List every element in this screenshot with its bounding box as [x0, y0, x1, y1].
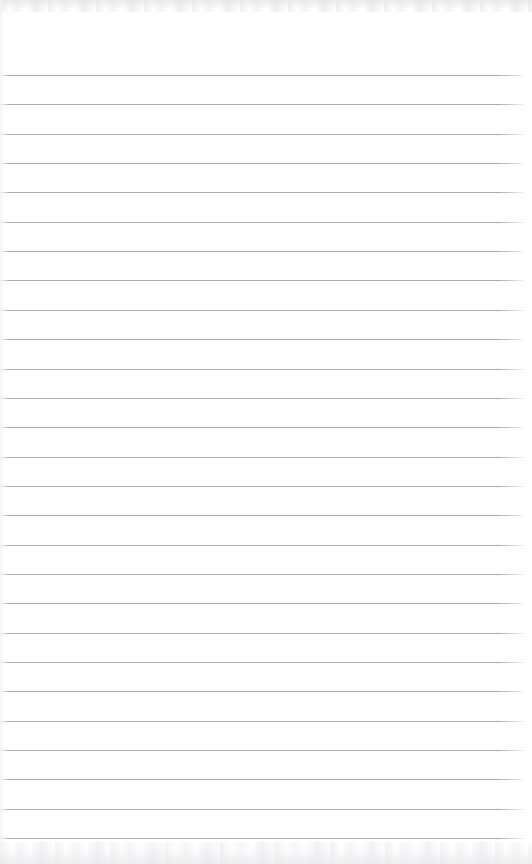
rule-line	[0, 603, 524, 604]
notebook-page	[0, 0, 532, 864]
rule-line	[0, 222, 524, 223]
rule-line	[0, 310, 524, 311]
rule-line	[0, 779, 524, 780]
rule-line	[0, 75, 524, 76]
rule-line	[0, 691, 524, 692]
rule-line	[0, 838, 524, 839]
rule-line	[0, 486, 524, 487]
rule-line	[0, 134, 524, 135]
rule-line	[0, 574, 524, 575]
rule-line	[0, 721, 524, 722]
rule-line	[0, 398, 524, 399]
rule-line	[0, 662, 524, 663]
rule-line	[0, 457, 524, 458]
rule-line	[0, 427, 524, 428]
rule-line	[0, 515, 524, 516]
rule-line	[0, 104, 524, 105]
ruled-lines-layer	[0, 0, 532, 864]
rule-line	[0, 369, 524, 370]
rule-line	[0, 280, 524, 281]
rule-line	[0, 163, 524, 164]
rule-line	[0, 633, 524, 634]
rule-line	[0, 809, 524, 810]
rule-line	[0, 192, 524, 193]
rule-line	[0, 545, 524, 546]
rule-line	[0, 339, 524, 340]
rule-line	[0, 251, 524, 252]
rule-line	[0, 750, 524, 751]
